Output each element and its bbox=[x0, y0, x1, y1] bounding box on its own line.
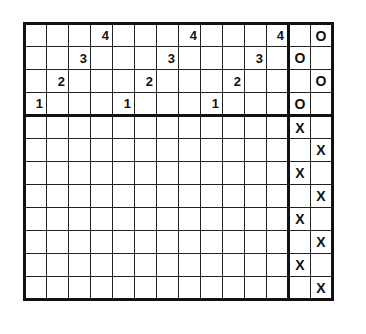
grid-cell bbox=[201, 139, 223, 162]
grid-cell: O bbox=[311, 24, 333, 47]
grid-row: X bbox=[25, 231, 333, 254]
grid-cell: O bbox=[311, 70, 333, 93]
grid-cell bbox=[179, 139, 201, 162]
grid-cell bbox=[201, 24, 223, 47]
grid-cell bbox=[245, 24, 267, 47]
grid-cell bbox=[223, 185, 245, 208]
grid-cell bbox=[135, 24, 157, 47]
grid-row: X bbox=[25, 139, 333, 162]
puzzle-grid: 444O333O222O111OXXXXXXXX bbox=[23, 22, 334, 301]
grid-cell bbox=[157, 185, 179, 208]
grid-cell bbox=[47, 47, 69, 70]
grid-cell bbox=[223, 208, 245, 231]
grid-cell bbox=[47, 185, 69, 208]
grid-cell bbox=[47, 208, 69, 231]
grid-cell bbox=[179, 254, 201, 277]
grid-cell: 4 bbox=[91, 24, 113, 47]
grid-cell bbox=[135, 139, 157, 162]
grid-cell bbox=[69, 93, 91, 116]
grid-cell bbox=[311, 116, 333, 139]
grid-cell bbox=[91, 139, 113, 162]
grid-cell bbox=[47, 231, 69, 254]
grid-cell bbox=[91, 116, 113, 139]
grid-cell bbox=[179, 208, 201, 231]
grid-cell bbox=[267, 277, 289, 300]
grid-cell bbox=[179, 277, 201, 300]
grid-cell bbox=[47, 162, 69, 185]
grid-cell: 4 bbox=[267, 24, 289, 47]
grid-cell: X bbox=[289, 208, 311, 231]
grid-cell bbox=[201, 208, 223, 231]
grid-cell bbox=[267, 254, 289, 277]
grid-cell bbox=[113, 116, 135, 139]
grid-cell bbox=[267, 185, 289, 208]
grid-row: X bbox=[25, 254, 333, 277]
grid-cell bbox=[157, 139, 179, 162]
grid-cell: X bbox=[289, 116, 311, 139]
grid-cell bbox=[289, 70, 311, 93]
grid-cell bbox=[135, 185, 157, 208]
grid-cell bbox=[25, 185, 47, 208]
grid-cell bbox=[91, 254, 113, 277]
grid-cell bbox=[113, 231, 135, 254]
grid-cell bbox=[113, 139, 135, 162]
grid-row: X bbox=[25, 185, 333, 208]
grid-row: X bbox=[25, 162, 333, 185]
grid-cell bbox=[69, 116, 91, 139]
grid-cell bbox=[223, 162, 245, 185]
grid-cell bbox=[113, 277, 135, 300]
grid-cell bbox=[157, 277, 179, 300]
grid-cell bbox=[311, 208, 333, 231]
grid-cell bbox=[201, 231, 223, 254]
grid-cell bbox=[47, 116, 69, 139]
grid-cell: 3 bbox=[245, 47, 267, 70]
grid-cell bbox=[311, 47, 333, 70]
grid-cell: X bbox=[311, 139, 333, 162]
grid-cell bbox=[47, 139, 69, 162]
grid-cell bbox=[201, 47, 223, 70]
grid-cell bbox=[135, 277, 157, 300]
grid-cell bbox=[267, 47, 289, 70]
grid-cell bbox=[157, 231, 179, 254]
grid-cell bbox=[201, 162, 223, 185]
grid-cell bbox=[47, 93, 69, 116]
grid-cell bbox=[91, 277, 113, 300]
grid-cell bbox=[267, 70, 289, 93]
grid-cell bbox=[311, 162, 333, 185]
grid-cell: 1 bbox=[113, 93, 135, 116]
grid-cell: X bbox=[311, 231, 333, 254]
grid-cell bbox=[25, 47, 47, 70]
grid-cell bbox=[223, 277, 245, 300]
grid-cell: 4 bbox=[179, 24, 201, 47]
grid-cell bbox=[25, 231, 47, 254]
grid-cell: 2 bbox=[223, 70, 245, 93]
grid-cell bbox=[69, 254, 91, 277]
grid-cell bbox=[25, 24, 47, 47]
grid-cell bbox=[47, 24, 69, 47]
grid-cell bbox=[223, 116, 245, 139]
grid-cell bbox=[135, 231, 157, 254]
grid-cell bbox=[157, 208, 179, 231]
grid-cell bbox=[91, 162, 113, 185]
grid-row: 333O bbox=[25, 47, 333, 70]
grid-cell bbox=[201, 277, 223, 300]
grid-cell: 2 bbox=[135, 70, 157, 93]
grid-row: 111O bbox=[25, 93, 333, 116]
grid-cell bbox=[311, 93, 333, 116]
grid-cell bbox=[267, 231, 289, 254]
grid-cell bbox=[245, 254, 267, 277]
grid-cell bbox=[289, 277, 311, 300]
grid-cell: X bbox=[289, 162, 311, 185]
grid-cell bbox=[157, 70, 179, 93]
grid-cell bbox=[157, 254, 179, 277]
grid-cell bbox=[69, 24, 91, 47]
grid-cell bbox=[25, 139, 47, 162]
grid-cell bbox=[135, 47, 157, 70]
grid-cell bbox=[245, 208, 267, 231]
grid-cell bbox=[179, 70, 201, 93]
grid-cell bbox=[179, 185, 201, 208]
grid-cell bbox=[267, 139, 289, 162]
grid-cell bbox=[157, 24, 179, 47]
grid-cell bbox=[201, 254, 223, 277]
grid-cell bbox=[201, 185, 223, 208]
